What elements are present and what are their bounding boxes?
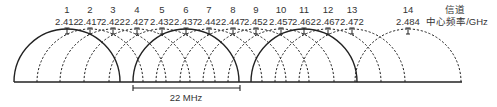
channel-number-12: 12 bbox=[323, 5, 334, 15]
channel-arc-13 bbox=[299, 29, 405, 82]
header-frequency-label: 中心频率/GHz bbox=[426, 17, 488, 27]
channel-arc-4 bbox=[84, 29, 190, 82]
channel-number-2: 2 bbox=[87, 5, 92, 15]
channel-frequency-11: 2.462 bbox=[292, 17, 316, 27]
channel-number-8: 8 bbox=[230, 5, 235, 15]
channel-arc-5 bbox=[109, 29, 215, 82]
header-channel-label: 信道 bbox=[445, 5, 465, 15]
channel-frequency-12: 2.467 bbox=[316, 17, 340, 27]
channel-number-9: 9 bbox=[253, 5, 258, 15]
channel-arc-6 bbox=[133, 29, 239, 82]
channel-number-1: 1 bbox=[64, 5, 69, 15]
channel-frequency-8: 2.447 bbox=[221, 17, 245, 27]
channel-arc-10 bbox=[228, 29, 334, 82]
channel-number-7: 7 bbox=[206, 5, 211, 15]
channel-arc-2 bbox=[37, 29, 143, 82]
bandwidth-bracket bbox=[133, 85, 240, 91]
channel-number-11: 11 bbox=[299, 5, 309, 15]
channel-number-4: 4 bbox=[134, 5, 139, 15]
channel-frequency-4: 2.427 bbox=[125, 17, 149, 27]
channel-number-3: 3 bbox=[110, 5, 115, 15]
channel-frequency-5: 2.432 bbox=[150, 17, 174, 27]
channel-arc-8 bbox=[180, 29, 286, 82]
channel-arc-9 bbox=[203, 29, 309, 82]
channel-frequency-3: 2.422 bbox=[101, 17, 125, 27]
channel-frequency-2: 2.417 bbox=[78, 17, 102, 27]
channel-arcs bbox=[14, 29, 461, 82]
channel-arc-11 bbox=[251, 29, 357, 82]
channel-arc-7 bbox=[156, 29, 262, 82]
channel-frequency-13: 2.472 bbox=[340, 17, 364, 27]
bandwidth-label: 22 MHz bbox=[170, 93, 203, 103]
channel-arc-14 bbox=[355, 29, 461, 82]
channel-number-5: 5 bbox=[159, 5, 164, 15]
channel-arc-12 bbox=[275, 29, 381, 82]
channel-frequency-9: 2.452 bbox=[244, 17, 268, 27]
channel-number-6: 6 bbox=[183, 5, 188, 15]
channel-frequency-10: 2.457 bbox=[269, 17, 293, 27]
channel-frequency-14: 2.484 bbox=[396, 17, 420, 27]
channel-number-13: 13 bbox=[347, 5, 358, 15]
channel-number-14: 14 bbox=[403, 5, 414, 15]
channel-frequency-7: 2.442 bbox=[197, 17, 221, 27]
channel-frequency-6: 2.437 bbox=[174, 17, 198, 27]
channel-arc-1 bbox=[14, 29, 120, 82]
channel-number-10: 10 bbox=[276, 5, 287, 15]
channel-frequency-1: 2.412 bbox=[55, 17, 79, 27]
channel-diagram: 12.41222.41732.42242.42752.43262.43772.4… bbox=[0, 0, 497, 107]
